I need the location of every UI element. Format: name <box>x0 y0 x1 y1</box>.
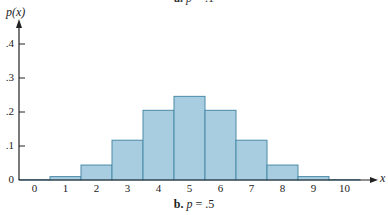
x-tick-label: 5 <box>180 182 200 194</box>
x-tick-label: 0 <box>25 182 45 194</box>
bar-6 <box>205 110 236 180</box>
bar-4 <box>143 110 174 180</box>
caption-p: p <box>186 197 192 211</box>
x-tick-label: 2 <box>87 182 107 194</box>
x-tick-label: 10 <box>335 182 355 194</box>
caption-letter: b. <box>174 197 184 211</box>
x-tick-label: 9 <box>304 182 324 194</box>
chart-caption: b. p = .5 <box>0 197 388 212</box>
x-axis-label: x <box>380 171 385 186</box>
y-tick-label: .2 <box>0 105 14 117</box>
x-tick-label: 6 <box>211 182 231 194</box>
y-tick-label: .1 <box>0 139 14 151</box>
x-axis-arrow-icon <box>370 177 378 183</box>
x-tick-label: 3 <box>118 182 138 194</box>
bar-2 <box>81 165 112 180</box>
caption-value: = .5 <box>195 197 214 211</box>
y-tick-label: .3 <box>0 71 14 83</box>
x-tick-label: 8 <box>273 182 293 194</box>
y-tick-label: 0 <box>0 173 14 185</box>
bar-7 <box>236 140 267 180</box>
bar-3 <box>112 140 143 180</box>
x-tick-label: 4 <box>149 182 169 194</box>
bar-5 <box>174 96 205 180</box>
x-tick-label: 1 <box>56 182 76 194</box>
x-tick-label: 7 <box>242 182 262 194</box>
bar-8 <box>267 165 298 180</box>
y-axis-arrow-icon <box>16 19 22 28</box>
y-tick-label: .4 <box>0 37 14 49</box>
